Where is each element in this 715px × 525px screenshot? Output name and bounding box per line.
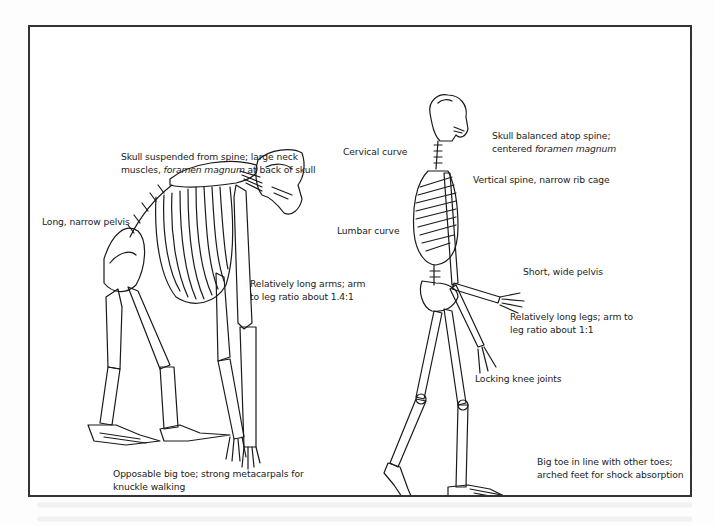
label-human-legs: Relatively long legs; arm to leg ratio a… (510, 310, 633, 336)
label-human-pelvis: Short, wide pelvis (523, 265, 603, 278)
label-human-cervical: Cervical curve (343, 145, 407, 158)
label-human-lumbar: Lumbar curve (337, 224, 399, 237)
chimpanzee-skeleton-icon (88, 150, 304, 469)
label-human-knee: Locking knee joints (475, 372, 562, 385)
label-chimp-feet: Opposable big toe; strong metacarpals fo… (113, 467, 304, 493)
label-human-feet: Big toe in line with other toes; arched … (537, 455, 684, 481)
page: Skull suspended from spine; large neck m… (0, 0, 715, 525)
label-human-skull: Skull balanced atop spine; centered fora… (492, 129, 616, 155)
skeleton-illustrations (30, 27, 690, 495)
label-chimp-arms: Relatively long arms; arm to leg ratio a… (250, 277, 365, 303)
label-human-spine: Vertical spine, narrow rib cage (473, 173, 610, 186)
figure-frame: Skull suspended from spine; large neck m… (28, 25, 692, 497)
label-chimp-skull: Skull suspended from spine; large neck m… (121, 150, 315, 176)
label-chimp-pelvis: Long, narrow pelvis (42, 215, 130, 228)
